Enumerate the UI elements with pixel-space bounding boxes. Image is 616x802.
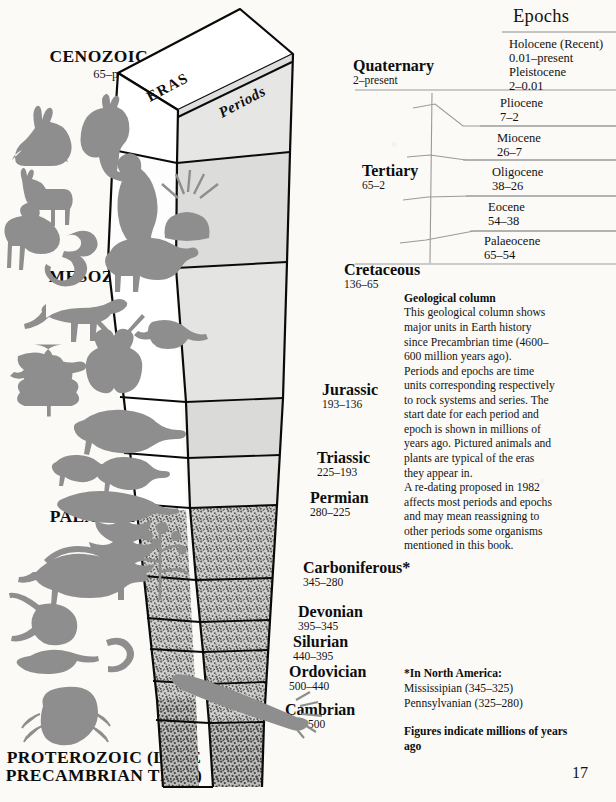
epoch-name: Pliocene bbox=[500, 96, 543, 110]
epoch-range: 0.01–present bbox=[509, 51, 603, 65]
epoch-name: Oligocene bbox=[492, 165, 543, 179]
epoch-pliocene: Pliocene 7–2 bbox=[500, 96, 543, 124]
epoch-palaeocene: Palaeocene 65–54 bbox=[484, 234, 540, 262]
page-number: 17 bbox=[572, 764, 588, 782]
epoch-name: Pleistocene bbox=[509, 65, 566, 79]
note-title: Geological column bbox=[404, 292, 556, 306]
epoch-range: 7–2 bbox=[500, 110, 543, 124]
geological-column-page: ERAS Periods bbox=[0, 0, 616, 802]
epoch-range: 65–54 bbox=[484, 248, 540, 262]
epoch-name: Holocene (Recent) bbox=[509, 37, 603, 51]
epoch-eocene: Eocene 54–38 bbox=[488, 200, 525, 228]
footnote-line-2: Pennsylvanian (325–280) bbox=[404, 696, 574, 711]
footnote-title: *In North America: bbox=[404, 666, 574, 681]
epochs-title: Epochs bbox=[513, 6, 569, 27]
north-america-footnote: *In North America: Mississipian (345–325… bbox=[404, 666, 574, 754]
epoch-name: Miocene bbox=[497, 131, 541, 145]
note-paragraph-1: This geological column shows major units… bbox=[404, 306, 556, 364]
epoch-range: 2–0.01 bbox=[509, 79, 566, 93]
note-paragraph-3: A re-dating proposed in 1982 affects mos… bbox=[404, 481, 556, 554]
geological-column-note: Geological column This geological column… bbox=[404, 292, 556, 554]
epoch-range: 26–7 bbox=[497, 145, 541, 159]
epoch-range: 54–38 bbox=[488, 214, 525, 228]
note-paragraph-2: Periods and epochs are time units corres… bbox=[404, 365, 556, 481]
figures-note: Figures indicate millions of years ago bbox=[404, 724, 574, 754]
epoch-range: 38–26 bbox=[492, 179, 543, 193]
epoch-pleistocene: Pleistocene 2–0.01 bbox=[509, 65, 566, 93]
epoch-miocene: Miocene 26–7 bbox=[497, 131, 541, 159]
epoch-name: Palaeocene bbox=[484, 234, 540, 248]
footnote-line-1: Mississipian (345–325) bbox=[404, 681, 574, 696]
epoch-oligocene: Oligocene 38–26 bbox=[492, 165, 543, 193]
epoch-holocene: Holocene (Recent) 0.01–present bbox=[509, 37, 603, 65]
epoch-name: Eocene bbox=[488, 200, 525, 214]
